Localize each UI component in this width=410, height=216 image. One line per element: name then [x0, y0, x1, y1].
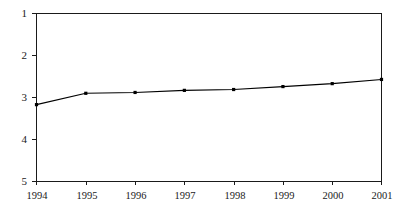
x-tick-label-1999: 1999 — [274, 190, 295, 201]
data-point-1995 — [84, 92, 87, 95]
y-tick-marks — [32, 14, 36, 182]
x-tick-label-1997: 1997 — [175, 190, 196, 201]
line-chart: 1 2 3 4 5 1994 1995 1996 1997 1998 1999 … — [0, 0, 410, 216]
data-point-1998 — [232, 88, 235, 91]
data-point-1999 — [281, 85, 284, 88]
data-point-2000 — [331, 82, 334, 85]
y-tick-labels: 1 2 3 4 5 — [22, 7, 28, 187]
x-tick-labels: 1994 1995 1996 1997 1998 1999 2000 2001 — [27, 190, 393, 201]
x-tick-label-2001: 2001 — [372, 190, 393, 201]
data-point-1997 — [183, 89, 186, 92]
x-tick-label-1995: 1995 — [77, 190, 98, 201]
x-tick-label-1998: 1998 — [225, 190, 246, 201]
data-point-1996 — [133, 91, 136, 94]
x-tick-label-1996: 1996 — [126, 190, 147, 201]
y-tick-label-5: 5 — [22, 175, 28, 187]
data-point-1994 — [35, 103, 38, 106]
y-tick-label-3: 3 — [22, 91, 28, 103]
data-point-2001 — [380, 78, 383, 81]
plot-frame — [36, 13, 382, 182]
y-tick-label-4: 4 — [22, 133, 28, 145]
series-markers — [35, 78, 383, 106]
data-series — [35, 78, 383, 106]
chart-container: 1 2 3 4 5 1994 1995 1996 1997 1998 1999 … — [0, 0, 410, 216]
y-tick-label-2: 2 — [22, 49, 28, 61]
x-tick-label-1994: 1994 — [27, 190, 49, 201]
y-tick-label-1: 1 — [22, 7, 28, 19]
series-line — [37, 79, 382, 104]
x-tick-label-2000: 2000 — [323, 190, 344, 201]
